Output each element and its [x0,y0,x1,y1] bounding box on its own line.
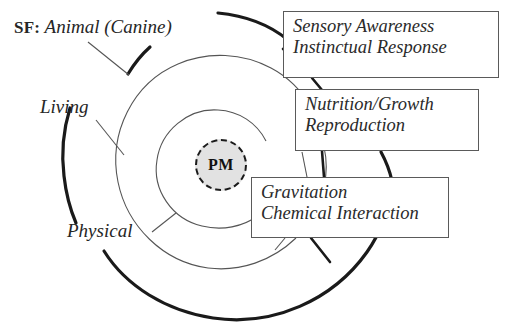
prime-matter-core: PM [195,139,247,191]
connector-nutrition-left [302,152,307,177]
sf-tag-label: SF: [14,18,40,37]
ring-label-physical: Physical [67,220,132,242]
leader-line-physical [152,213,176,232]
callout-box-nutrition: Nutrition/Growth Reproduction [295,89,479,151]
subject-label: Animal (Canine) [45,16,172,37]
callout-gravitation-line-2: Chemical Interaction [261,203,441,224]
diagram-canvas: SF: Animal (Canine) Living Physical PM S… [0,0,506,334]
callout-nutrition-line-2: Reproduction [305,115,471,136]
callout-gravitation-line-1: Gravitation [261,182,441,203]
connector-gravitation-right [311,238,330,262]
outer-ring-tick-upper-left [128,47,150,74]
callout-nutrition-line-1: Nutrition/Growth [305,94,471,115]
callout-sensory-line-1: Sensory Awareness [293,16,491,37]
callout-box-gravitation: Gravitation Chemical Interaction [251,177,449,238]
connector-nutrition-right [322,151,324,177]
subject-header: SF: Animal (Canine) [14,16,172,38]
outer-ring-arc-left-upper [63,108,76,223]
ring-label-living: Living [40,96,89,118]
outer-ring-arc-top [218,13,288,40]
prime-matter-label: PM [208,156,234,174]
leader-line-animal [88,42,129,75]
leader-line-living [96,120,124,155]
callout-box-sensory: Sensory Awareness Instinctual Response [283,11,499,78]
callout-sensory-line-2: Instinctual Response [293,37,491,58]
